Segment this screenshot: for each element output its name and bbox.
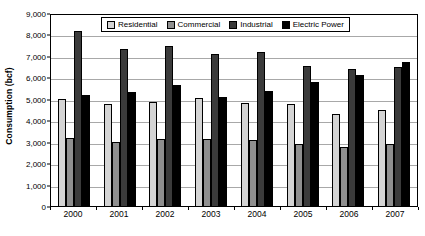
x-tick-label-2004: 2004	[234, 209, 280, 219]
x-tick-label-2001: 2001	[96, 209, 142, 219]
bar-residential-2007	[378, 110, 386, 206]
bar-commercial-2005	[295, 144, 303, 206]
bar-commercial-2002	[157, 139, 165, 206]
bar-electric-2006	[356, 75, 364, 206]
bar-residential-2000	[58, 99, 66, 206]
y-tick-label: 2,000	[26, 160, 46, 169]
legend-label-industrial: Industrial	[240, 20, 272, 29]
y-axis-title: Consumption (bcf)	[0, 0, 18, 212]
x-axis-tick-labels: 20002001200220032004200520062007	[50, 209, 418, 219]
x-tick-label-2005: 2005	[280, 209, 326, 219]
bar-group-2006	[326, 15, 372, 206]
y-tick-label: 9,000	[26, 10, 46, 19]
y-tick-label: 3,000	[26, 138, 46, 147]
legend-label-commercial: Commercial	[178, 20, 221, 29]
bar-commercial-2006	[340, 147, 348, 206]
y-tick-label: 1,000	[26, 181, 46, 190]
bar-group-2001	[97, 15, 143, 206]
legend-item-industrial[interactable]: Industrial	[229, 20, 272, 29]
bar-residential-2006	[332, 114, 340, 206]
bar-electric-2000	[82, 95, 90, 206]
bar-electric-2001	[128, 92, 136, 206]
bar-group-2002	[143, 15, 189, 206]
bar-industrial-2004	[257, 52, 265, 206]
legend-label-electric: Electric Power	[293, 20, 344, 29]
bar-chart: Consumption (bcf) 9,0008,0007,0006,0005,…	[0, 0, 425, 236]
x-tick-label-2003: 2003	[188, 209, 234, 219]
y-tick-label: 7,000	[26, 52, 46, 61]
bar-industrial-2007	[394, 67, 402, 206]
bar-industrial-2006	[348, 69, 356, 206]
bar-group-2004	[234, 15, 280, 206]
bar-electric-2003	[219, 97, 227, 206]
chart-legend: ResidentialCommercialIndustrialElectric …	[101, 17, 350, 32]
legend-swatch-commercial-icon	[167, 21, 175, 29]
legend-swatch-residential-icon	[107, 21, 115, 29]
y-tick-label: 5,000	[26, 95, 46, 104]
bar-group-2000	[51, 15, 97, 206]
x-tick-label-2006: 2006	[326, 209, 372, 219]
bar-commercial-2004	[249, 140, 257, 206]
legend-item-commercial[interactable]: Commercial	[167, 20, 221, 29]
bar-group-2007	[371, 15, 417, 206]
plot-area	[50, 14, 418, 207]
bar-commercial-2000	[66, 138, 74, 206]
x-tick-label-2007: 2007	[372, 209, 418, 219]
legend-item-residential[interactable]: Residential	[107, 20, 158, 29]
x-tick-label-2000: 2000	[50, 209, 96, 219]
bar-group-2005	[280, 15, 326, 206]
legend-swatch-electric-icon	[282, 21, 290, 29]
legend-swatch-industrial-icon	[229, 21, 237, 29]
bar-residential-2004	[241, 103, 249, 206]
bar-industrial-2003	[211, 54, 219, 206]
bar-residential-2003	[195, 98, 203, 206]
bar-industrial-2000	[74, 31, 82, 206]
legend-item-electric[interactable]: Electric Power	[282, 20, 344, 29]
x-tick-label-2002: 2002	[142, 209, 188, 219]
x-tick-mark	[418, 207, 419, 210]
bar-electric-2002	[173, 85, 181, 206]
bar-commercial-2001	[112, 142, 120, 206]
y-axis-title-label: Consumption (bcf)	[4, 67, 14, 144]
y-tick-label: 6,000	[26, 74, 46, 83]
bars-layer	[51, 15, 417, 206]
y-tick-label: 8,000	[26, 31, 46, 40]
bar-industrial-2001	[120, 49, 128, 206]
bar-residential-2005	[287, 104, 295, 206]
bar-group-2003	[188, 15, 234, 206]
bar-commercial-2007	[386, 144, 394, 206]
bar-residential-2002	[149, 102, 157, 206]
bar-industrial-2002	[165, 46, 173, 206]
y-tick-label: 4,000	[26, 117, 46, 126]
y-axis-tick-labels: 9,0008,0007,0006,0005,0004,0003,0002,000…	[18, 8, 50, 207]
bar-industrial-2005	[303, 66, 311, 206]
bar-electric-2007	[402, 62, 410, 206]
bar-electric-2005	[311, 82, 319, 206]
bar-commercial-2003	[203, 139, 211, 206]
y-tick-label: 0	[42, 203, 46, 212]
legend-label-residential: Residential	[118, 20, 158, 29]
bar-electric-2004	[265, 91, 273, 206]
bar-residential-2001	[104, 104, 112, 206]
